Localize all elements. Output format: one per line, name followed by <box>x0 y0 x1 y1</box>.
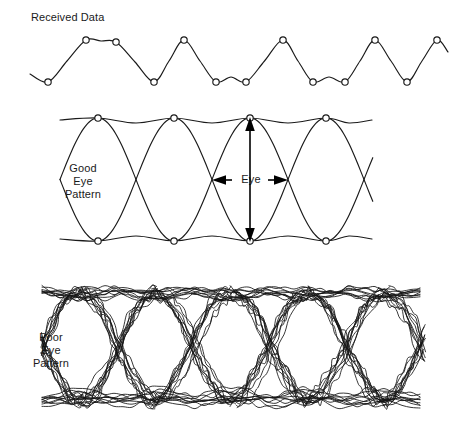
received-data-sample-markers <box>45 37 440 85</box>
eye-sample-marker-top <box>171 115 177 121</box>
sample-point-marker <box>243 79 249 85</box>
figure-canvas <box>0 0 459 430</box>
poor-eye-rising-edge <box>377 325 426 397</box>
eye-rising-edge <box>250 118 326 241</box>
eye-pattern-figure: Received Data GoodEyePattern PoorEyePatt… <box>0 0 459 430</box>
sample-point-marker <box>310 79 316 85</box>
eye-rising-edge <box>326 158 373 241</box>
eye-falling-edge <box>60 180 98 242</box>
sample-point-marker <box>213 79 219 85</box>
eye-sample-marker-top <box>323 115 329 121</box>
eye-sample-marker-bottom <box>171 238 177 244</box>
eye-falling-edge <box>326 118 373 201</box>
poor-eye-falling-edge <box>42 337 86 405</box>
received-data-waveform <box>30 39 448 83</box>
poor-eye-rising-edge <box>304 295 380 403</box>
poor-eye-pattern-traces <box>40 285 425 410</box>
sample-point-marker <box>372 37 378 43</box>
sample-point-marker <box>434 37 440 43</box>
eye-sample-marker-bottom <box>323 238 329 244</box>
received-data-trace-path <box>30 39 448 83</box>
poor-eye-rising-edge <box>153 290 228 401</box>
sample-point-marker <box>342 79 348 85</box>
eye-dimension-arrows <box>212 117 288 242</box>
sample-point-marker <box>45 79 51 85</box>
poor-eye-rising-edge <box>151 296 227 403</box>
eye-sample-marker-top <box>95 115 101 121</box>
sample-point-marker <box>83 37 89 43</box>
sample-point-marker <box>113 39 119 45</box>
eye-sample-marker-bottom <box>95 238 101 244</box>
eye-rising-edge <box>98 118 174 241</box>
sample-point-marker <box>404 79 410 85</box>
poor-eye-rising-edge <box>310 289 384 403</box>
eye-rising-edge <box>60 118 98 180</box>
eye-rising-edge <box>174 118 250 241</box>
sample-point-marker <box>151 79 157 85</box>
sample-point-marker <box>280 37 286 43</box>
sample-point-marker <box>181 37 187 43</box>
